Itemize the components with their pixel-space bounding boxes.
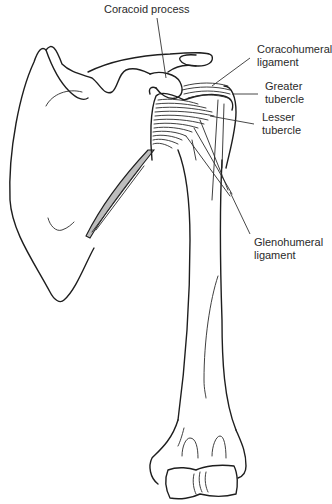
scapula-superior-border (46, 46, 150, 92)
leader-coracoid-process (157, 18, 166, 78)
label-greater-tubercle: Greater tubercle (265, 80, 304, 106)
label-lesser-tubercle: Lesser tubercle (262, 111, 301, 137)
humerus-shaft-ridge (204, 276, 218, 398)
scapula-inner-curve-upper (46, 91, 82, 106)
humerus-shaft-medial (178, 150, 190, 420)
label-glenohumeral-ligament: Glenohumeral ligament (254, 236, 323, 262)
label-coracohumeral-ligament: Coracohumeral ligament (257, 43, 332, 69)
leader-glenohumeral-ligament (230, 192, 250, 234)
olecranon-fossa-right (212, 436, 226, 458)
olecranon-fossa-left (182, 438, 198, 458)
scapula-outline (10, 49, 94, 302)
trochlea (166, 465, 237, 499)
leader-coracohumeral-ligament (212, 58, 250, 86)
label-coracoid-process: Coracoid process (104, 3, 190, 16)
scapula-inner-curve-lower (48, 218, 74, 230)
acromion (88, 53, 212, 72)
